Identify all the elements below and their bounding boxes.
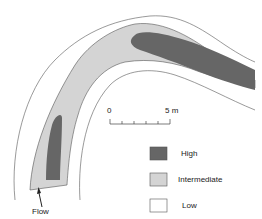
flow-label: Flow bbox=[32, 207, 49, 216]
legend-label-high: High bbox=[181, 149, 197, 158]
legend-label-low: Low bbox=[182, 201, 197, 210]
scale-bar bbox=[110, 119, 170, 124]
scale-start-label: 0 bbox=[107, 106, 111, 115]
channel-map bbox=[0, 0, 262, 219]
legend-label-intermediate: Intermediate bbox=[178, 175, 222, 184]
scale-end-label: 5 m bbox=[165, 106, 178, 115]
flow-arrow-line bbox=[39, 193, 42, 207]
legend-swatch-intermediate bbox=[150, 173, 167, 186]
legend-swatch-low bbox=[150, 199, 167, 212]
legend-swatch-high bbox=[150, 147, 167, 160]
